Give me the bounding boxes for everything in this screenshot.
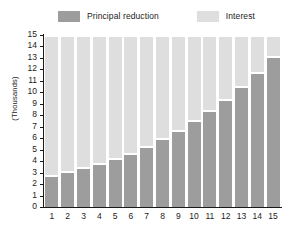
- bar-segment-principal-reduction[interactable]: [77, 169, 90, 207]
- x-tick-label: 7: [140, 211, 153, 222]
- bar-segment-principal-reduction[interactable]: [124, 155, 137, 207]
- bar-group[interactable]: [172, 35, 185, 207]
- bar-segment-principal-reduction[interactable]: [140, 148, 153, 207]
- bar-segment-interest[interactable]: [235, 37, 248, 86]
- bar-segment-principal-reduction[interactable]: [109, 160, 122, 207]
- bar-segment-interest[interactable]: [172, 37, 185, 130]
- bar-group[interactable]: [109, 35, 122, 207]
- y-tick-label: 4: [32, 155, 37, 166]
- y-tick: 0: [0, 207, 44, 208]
- y-tick-label: 1: [32, 190, 37, 201]
- legend-label-principal-reduction: Principal reduction: [87, 11, 159, 22]
- bar-segment-principal-reduction[interactable]: [219, 101, 232, 207]
- stacked-bar-chart: Principal reduction Interest (Thousands)…: [0, 0, 289, 231]
- bar-segment-interest[interactable]: [219, 37, 232, 99]
- y-tick: 3: [0, 173, 44, 174]
- legend-swatch-principal-icon: [58, 11, 80, 22]
- bar-group[interactable]: [156, 35, 169, 207]
- x-tick-label: 15: [267, 211, 280, 222]
- y-tick-label: 2: [32, 178, 37, 189]
- x-tick-label: 6: [124, 211, 137, 222]
- chart-legend: Principal reduction Interest: [58, 8, 278, 24]
- bar-group[interactable]: [124, 35, 137, 207]
- y-tick-label: 15: [28, 29, 37, 40]
- bar-segment-interest[interactable]: [45, 37, 58, 176]
- x-tick-label: 8: [156, 211, 169, 222]
- y-tick-label: 8: [32, 109, 37, 120]
- y-tick-label: 5: [32, 144, 37, 155]
- legend-swatch-interest-icon: [197, 11, 219, 22]
- bar-segment-interest[interactable]: [203, 37, 216, 110]
- y-tick-label: 7: [32, 121, 37, 132]
- x-tick-label: 9: [172, 211, 185, 222]
- bar-segment-principal-reduction[interactable]: [188, 122, 201, 207]
- y-tick: 5: [0, 150, 44, 151]
- bar-group[interactable]: [77, 35, 90, 207]
- bar-group[interactable]: [188, 35, 201, 207]
- y-tick: 12: [0, 69, 44, 70]
- legend-entry-interest: Interest: [197, 11, 255, 22]
- bar-segment-interest[interactable]: [93, 37, 106, 163]
- bar-segment-interest[interactable]: [77, 37, 90, 168]
- y-tick: 1: [0, 196, 44, 197]
- bar-group[interactable]: [235, 35, 248, 207]
- y-tick-label: 6: [32, 132, 37, 143]
- x-tick-label: 10: [188, 211, 201, 222]
- bar-group[interactable]: [45, 35, 58, 207]
- bar-segment-principal-reduction[interactable]: [93, 165, 106, 207]
- y-tick-label: 11: [28, 75, 37, 86]
- bar-group[interactable]: [203, 35, 216, 207]
- bar-segment-interest[interactable]: [251, 37, 264, 72]
- y-tick-label: 0: [32, 201, 37, 212]
- x-tick-label: 13: [235, 211, 248, 222]
- bar-segment-interest[interactable]: [61, 37, 74, 172]
- y-tick-label: 14: [28, 40, 37, 51]
- y-tick: 4: [0, 161, 44, 162]
- bar-segment-principal-reduction[interactable]: [61, 173, 74, 207]
- y-tick: 10: [0, 92, 44, 93]
- bar-group[interactable]: [267, 35, 280, 207]
- y-tick-label: 3: [32, 167, 37, 178]
- bar-group[interactable]: [61, 35, 74, 207]
- x-tick-label: 14: [251, 211, 264, 222]
- legend-label-interest: Interest: [226, 11, 255, 22]
- y-tick: 13: [0, 58, 44, 59]
- bar-group[interactable]: [251, 35, 264, 207]
- bar-segment-interest[interactable]: [267, 37, 280, 56]
- x-tick-label: 5: [109, 211, 122, 222]
- y-tick-label: 9: [32, 98, 37, 109]
- bar-segment-principal-reduction[interactable]: [235, 88, 248, 207]
- x-tick-label: 3: [77, 211, 90, 222]
- y-tick-mark: [40, 207, 44, 208]
- y-tick: 14: [0, 46, 44, 47]
- x-axis-line: [43, 207, 282, 208]
- x-tick-label: 12: [219, 211, 232, 222]
- bar-segment-principal-reduction[interactable]: [267, 58, 280, 207]
- bar-segment-principal-reduction[interactable]: [251, 74, 264, 207]
- legend-entry-principal-reduction: Principal reduction: [58, 11, 159, 22]
- bar-segment-interest[interactable]: [140, 37, 153, 146]
- x-tick-label: 2: [61, 211, 74, 222]
- bar-group[interactable]: [140, 35, 153, 207]
- y-tick-label: 12: [28, 63, 37, 74]
- bar-segment-principal-reduction[interactable]: [45, 177, 58, 207]
- y-tick-label: 10: [28, 86, 37, 97]
- bar-segment-principal-reduction[interactable]: [172, 132, 185, 207]
- bar-group[interactable]: [219, 35, 232, 207]
- bar-group[interactable]: [93, 35, 106, 207]
- x-tick-label: 11: [203, 211, 216, 222]
- bar-segment-interest[interactable]: [156, 37, 169, 138]
- x-tick-label: 4: [93, 211, 106, 222]
- y-tick-label: 13: [28, 52, 37, 63]
- y-tick: 2: [0, 184, 44, 185]
- bar-segment-principal-reduction[interactable]: [203, 112, 216, 207]
- bar-segment-interest[interactable]: [109, 37, 122, 159]
- plot-area: [44, 35, 281, 207]
- bar-segment-interest[interactable]: [188, 37, 201, 121]
- y-tick: 11: [0, 81, 44, 82]
- y-tick: 7: [0, 127, 44, 128]
- y-tick: 9: [0, 104, 44, 105]
- bar-segment-interest[interactable]: [124, 37, 137, 153]
- y-tick: 15: [0, 35, 44, 36]
- bar-segment-principal-reduction[interactable]: [156, 140, 169, 207]
